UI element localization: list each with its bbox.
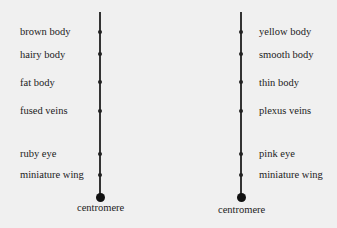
right-gene-label: miniature wing xyxy=(259,169,323,181)
left-locus-marker xyxy=(98,52,102,56)
right-gene-label: smooth body xyxy=(259,49,314,61)
left-centromere-label: centromere xyxy=(77,202,124,214)
right-chromosome-line xyxy=(240,12,242,199)
left-chromosome-line xyxy=(99,12,101,199)
right-locus-marker xyxy=(239,52,243,56)
left-locus-marker xyxy=(98,152,102,156)
left-gene-label: fused veins xyxy=(20,105,68,117)
right-locus-marker xyxy=(239,152,243,156)
right-gene-label: pink eye xyxy=(259,148,295,160)
left-locus-marker xyxy=(98,80,102,84)
left-gene-label: hairy body xyxy=(20,49,65,61)
right-gene-label: thin body xyxy=(259,77,299,89)
right-locus-marker xyxy=(239,173,243,177)
right-gene-label: plexus veins xyxy=(259,105,311,117)
right-locus-marker xyxy=(239,80,243,84)
left-gene-label: brown body xyxy=(20,26,70,38)
right-gene-label: yellow body xyxy=(259,26,311,38)
right-centromere xyxy=(237,193,246,202)
right-centromere-label: centromere xyxy=(218,204,265,216)
left-centromere xyxy=(96,193,105,202)
left-locus-marker xyxy=(98,30,102,34)
right-locus-marker xyxy=(239,109,243,113)
left-gene-label: fat body xyxy=(20,77,55,89)
left-locus-marker xyxy=(98,109,102,113)
left-locus-marker xyxy=(98,173,102,177)
right-locus-marker xyxy=(239,30,243,34)
left-gene-label: miniature wing xyxy=(20,169,84,181)
left-gene-label: ruby eye xyxy=(20,148,56,160)
